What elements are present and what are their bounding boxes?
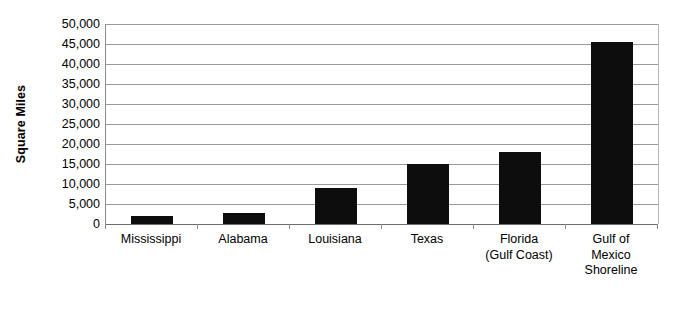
plot-area xyxy=(105,24,659,224)
bar-chart: Square Miles 05,00010,00015,00020,00025,… xyxy=(0,0,678,310)
y-axis-tick-label: 20,000 xyxy=(36,138,100,151)
x-axis-tick xyxy=(289,224,290,229)
x-axis-category-label-line: Gulf of xyxy=(565,232,657,248)
bar-series xyxy=(106,24,658,224)
x-axis-tick xyxy=(565,224,566,229)
x-axis-category-label-line: (Gulf Coast) xyxy=(473,248,565,264)
x-axis-category-label-line: Shoreline xyxy=(565,263,657,279)
x-axis-category-label-line: Texas xyxy=(381,232,473,248)
x-axis-tick xyxy=(197,224,198,229)
x-axis-category-label-line: Florida xyxy=(473,232,565,248)
bar xyxy=(223,213,265,224)
y-axis-tick-label: 35,000 xyxy=(36,78,100,91)
x-axis-ticks xyxy=(105,224,658,229)
bar xyxy=(591,42,633,224)
bar xyxy=(315,188,357,224)
bar xyxy=(407,164,449,224)
x-axis-tick xyxy=(105,224,106,229)
y-axis-tick-label: 40,000 xyxy=(36,58,100,71)
y-axis-tick-label: 50,000 xyxy=(36,18,100,31)
x-axis-tick xyxy=(381,224,382,229)
x-axis-category-label: Texas xyxy=(381,232,473,248)
y-axis-title: Square Miles xyxy=(6,54,36,194)
y-axis-tick-label: 5,000 xyxy=(36,198,100,211)
x-axis-category-label-line: Louisiana xyxy=(289,232,381,248)
x-axis-category-label: Mississippi xyxy=(105,232,197,248)
y-axis-tick-label: 10,000 xyxy=(36,178,100,191)
x-axis-category-labels: MississippiAlabamaLouisianaTexasFlorida(… xyxy=(105,232,657,304)
y-axis-tick-label: 0 xyxy=(36,218,100,231)
x-axis-category-label-line: Alabama xyxy=(197,232,289,248)
x-axis-tick xyxy=(473,224,474,229)
x-axis-tick xyxy=(657,224,658,229)
y-axis-title-text: Square Miles xyxy=(14,85,28,163)
x-axis-category-label-line: Mississippi xyxy=(105,232,197,248)
y-axis-tick-label: 15,000 xyxy=(36,158,100,171)
x-axis-category-label: Florida(Gulf Coast) xyxy=(473,232,565,263)
x-axis-category-label: Louisiana xyxy=(289,232,381,248)
bar xyxy=(131,216,173,224)
y-axis-tick-label: 45,000 xyxy=(36,38,100,51)
y-axis-tick-label: 25,000 xyxy=(36,118,100,131)
x-axis-category-label: Alabama xyxy=(197,232,289,248)
y-axis-tick-label: 30,000 xyxy=(36,98,100,111)
y-axis-tick-labels: 05,00010,00015,00020,00025,00030,00035,0… xyxy=(36,24,100,224)
x-axis-category-label-line: Mexico xyxy=(565,248,657,264)
bar xyxy=(499,152,541,224)
x-axis-category-label: Gulf ofMexicoShoreline xyxy=(565,232,657,279)
